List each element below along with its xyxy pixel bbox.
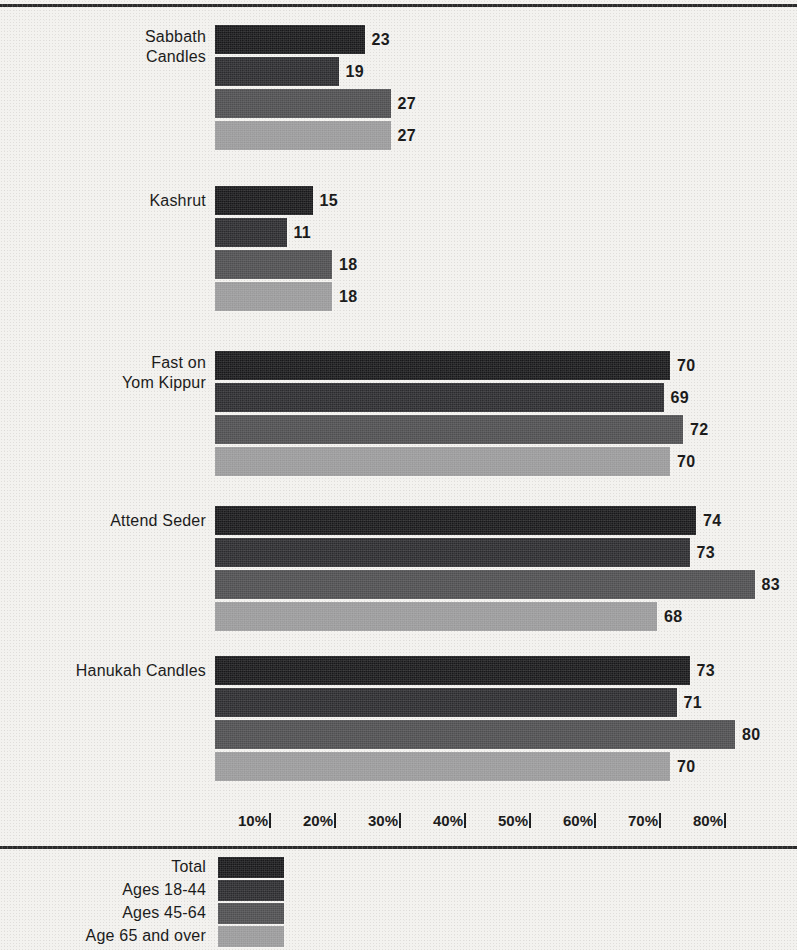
x-axis-tick: 40% bbox=[433, 812, 466, 829]
bar-value-label: 27 bbox=[398, 121, 416, 150]
legend-item-label: Age 65 and over bbox=[0, 925, 206, 947]
tick-mark-icon bbox=[724, 813, 726, 828]
bar-value-label: 70 bbox=[677, 351, 695, 380]
bar-value-label: 68 bbox=[664, 602, 682, 631]
bar-value-label: 74 bbox=[703, 506, 721, 535]
bar[interactable] bbox=[215, 351, 670, 380]
bar-value-label: 71 bbox=[684, 688, 702, 717]
bar-value-label: 69 bbox=[671, 383, 689, 412]
bar-value-label: 70 bbox=[677, 752, 695, 781]
bar-value-label: 18 bbox=[339, 282, 357, 311]
x-axis: 10%20%30%40%50%60%70%80% bbox=[0, 812, 797, 838]
bar[interactable] bbox=[215, 570, 755, 599]
category-label: Kashrut bbox=[0, 191, 206, 211]
legend-item-label: Total bbox=[0, 856, 206, 878]
bar-value-label: 11 bbox=[294, 218, 312, 247]
bar-group: Attend Seder74738368 bbox=[0, 506, 797, 634]
legend-color-swatch bbox=[218, 880, 284, 901]
x-axis-tick: 10% bbox=[238, 812, 271, 829]
bar-group: Fast on Yom Kippur70697270 bbox=[0, 351, 797, 479]
tick-mark-icon bbox=[334, 813, 336, 828]
bar-value-label: 73 bbox=[697, 656, 715, 685]
category-label: Fast on Yom Kippur bbox=[0, 353, 206, 393]
bar[interactable] bbox=[215, 688, 677, 717]
bar[interactable] bbox=[215, 25, 365, 54]
bar[interactable] bbox=[215, 218, 287, 247]
bar[interactable] bbox=[215, 415, 683, 444]
bar-value-label: 73 bbox=[697, 538, 715, 567]
bar[interactable] bbox=[215, 538, 690, 567]
bar[interactable] bbox=[215, 282, 332, 311]
legend-color-swatch bbox=[218, 903, 284, 924]
legend-item-label: Ages 18-44 bbox=[0, 879, 206, 901]
x-axis-tick: 70% bbox=[628, 812, 661, 829]
x-axis-tick: 80% bbox=[693, 812, 726, 829]
bar-value-label: 23 bbox=[372, 25, 390, 54]
bar-chart-plot-area: Sabbath Candles23192727Kashrut15111818Fa… bbox=[0, 0, 797, 800]
bar[interactable] bbox=[215, 656, 690, 685]
bar-group: Hanukah Candles73718070 bbox=[0, 656, 797, 784]
tick-mark-icon bbox=[464, 813, 466, 828]
bar[interactable] bbox=[215, 506, 696, 535]
category-label: Attend Seder bbox=[0, 511, 206, 531]
x-axis-tick: 30% bbox=[368, 812, 401, 829]
bar[interactable] bbox=[215, 250, 332, 279]
bar-value-label: 19 bbox=[346, 57, 364, 86]
x-axis-tick: 50% bbox=[498, 812, 531, 829]
x-axis-tick: 60% bbox=[563, 812, 596, 829]
bottom-divider-rule bbox=[0, 846, 797, 849]
bar-value-label: 72 bbox=[690, 415, 708, 444]
bar[interactable] bbox=[215, 186, 313, 215]
bar[interactable] bbox=[215, 89, 391, 118]
bar-group: Sabbath Candles23192727 bbox=[0, 25, 797, 153]
tick-mark-icon bbox=[269, 813, 271, 828]
category-label: Sabbath Candles bbox=[0, 27, 206, 67]
bar-group: Kashrut15111818 bbox=[0, 186, 797, 314]
category-label: Hanukah Candles bbox=[0, 661, 206, 681]
bar-value-label: 70 bbox=[677, 447, 695, 476]
legend-color-swatch bbox=[218, 926, 284, 947]
bar[interactable] bbox=[215, 602, 657, 631]
bar[interactable] bbox=[215, 383, 664, 412]
tick-mark-icon bbox=[399, 813, 401, 828]
bar[interactable] bbox=[215, 720, 735, 749]
bar[interactable] bbox=[215, 57, 339, 86]
bar[interactable] bbox=[215, 447, 670, 476]
tick-mark-icon bbox=[594, 813, 596, 828]
bar-value-label: 27 bbox=[398, 89, 416, 118]
top-divider-rule bbox=[0, 4, 797, 7]
legend-item-label: Ages 45-64 bbox=[0, 902, 206, 924]
bar[interactable] bbox=[215, 121, 391, 150]
bar-value-label: 80 bbox=[742, 720, 760, 749]
tick-mark-icon bbox=[529, 813, 531, 828]
bar[interactable] bbox=[215, 752, 670, 781]
bar-value-label: 83 bbox=[762, 570, 780, 599]
legend-color-swatch bbox=[218, 857, 284, 878]
x-axis-tick: 20% bbox=[303, 812, 336, 829]
tick-mark-icon bbox=[659, 813, 661, 828]
bar-value-label: 15 bbox=[320, 186, 338, 215]
bar-value-label: 18 bbox=[339, 250, 357, 279]
